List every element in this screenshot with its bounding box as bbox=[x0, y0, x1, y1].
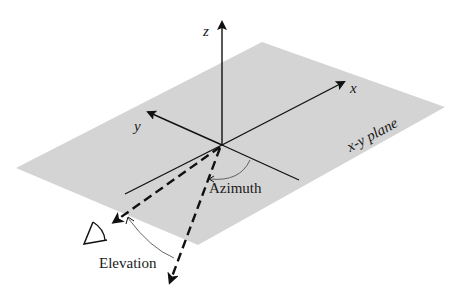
diagram-svg: z x y x-y plane Azimuth Elevation bbox=[0, 0, 462, 303]
elevation-label: Elevation bbox=[99, 255, 157, 271]
xy-plane bbox=[16, 42, 445, 245]
azimuth-label: Azimuth bbox=[209, 180, 262, 196]
diagram-canvas: z x y x-y plane Azimuth Elevation bbox=[0, 0, 462, 303]
eye-icon bbox=[84, 222, 107, 244]
z-axis-label: z bbox=[202, 23, 209, 39]
y-axis-label: y bbox=[132, 118, 141, 134]
x-axis-label: x bbox=[349, 80, 357, 96]
